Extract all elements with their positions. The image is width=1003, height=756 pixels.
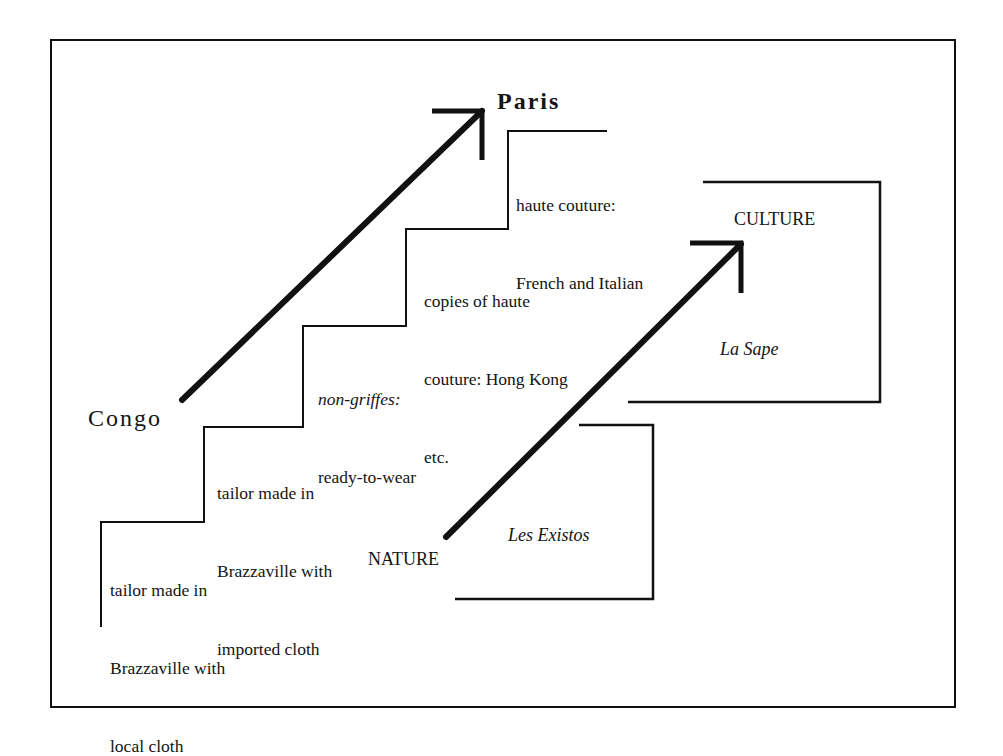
step-1-line-1: tailor made in (110, 577, 225, 603)
step-2-line-1: tailor made in (217, 480, 332, 506)
step-1-local-cloth: tailor made in Brazzaville with local cl… (110, 525, 225, 756)
la-sape-label: La Sape (720, 338, 779, 361)
step-3-line-2: ready-to-wear (318, 464, 416, 490)
nature-label: NATURE (368, 548, 439, 571)
step-4-line-2: couture: Hong Kong (424, 366, 568, 392)
step-1-line-2: Brazzaville with (110, 655, 225, 681)
step-3-line-1: non-griffes: (318, 386, 416, 412)
congo-label: Congo (88, 403, 162, 433)
step-5-line-1: haute couture: (516, 192, 643, 218)
paris-label: Paris (497, 86, 560, 116)
culture-label: CULTURE (734, 208, 815, 231)
step-1-line-3: local cloth (110, 733, 225, 756)
step-2-imported-cloth: tailor made in Brazzaville with imported… (217, 428, 332, 688)
step-2-line-2: Brazzaville with (217, 558, 332, 584)
step-4-line-3: etc. (424, 444, 568, 470)
les-existos-label: Les Existos (508, 524, 590, 547)
step-4-copies: copies of haute couture: Hong Kong etc. (424, 236, 568, 496)
step-4-line-1: copies of haute (424, 288, 568, 314)
step-3-non-griffes: non-griffes: ready-to-wear (318, 334, 416, 516)
step-2-line-3: imported cloth (217, 636, 332, 662)
